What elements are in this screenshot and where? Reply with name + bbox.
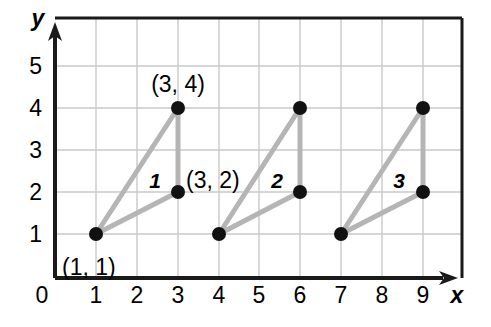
triangle-label-2: 2 [270,169,283,192]
vertex-dot-9-2 [416,185,430,199]
origin-label: 0 [36,282,49,308]
vertex-dot-1-1 [89,227,103,241]
triangle-label-1: 1 [149,169,161,192]
vertex-dot-9-4 [416,101,430,115]
x-tick-label-7: 7 [335,282,348,308]
x-tick-label-1: 1 [90,282,103,308]
x-tick-label-6: 6 [294,282,307,308]
vertex-dot-4-1 [212,227,226,241]
x-tick-label-3: 3 [172,282,185,308]
vertex-dot-7-1 [334,227,348,241]
y-tick-label-5: 5 [29,53,42,79]
y-tick-label-4: 4 [29,95,42,121]
vertex-dot-3-4 [171,101,185,115]
x-tick-label-9: 9 [417,282,430,308]
point-label-3-2: (3, 2) [186,167,240,193]
triangle-label-3: 3 [393,169,405,192]
coordinate-plane-figure: (1, 1) (3, 4) (3, 2) 1 2 3 1 2 3 4 5 0 1… [0,0,491,327]
y-axis-label: y [31,5,46,31]
point-label-1-1: (1, 1) [62,254,116,280]
x-tick-label-5: 5 [253,282,266,308]
vertex-dot-3-2 [171,185,185,199]
triangles-on-grid-chart: (1, 1) (3, 4) (3, 2) 1 2 3 1 2 3 4 5 0 1… [0,0,491,327]
x-axis-label: x [449,282,465,308]
x-tick-label-2: 2 [131,282,144,308]
x-tick-label-4: 4 [213,282,226,308]
x-tick-label-8: 8 [376,282,389,308]
vertex-dot-6-2 [293,185,307,199]
point-label-3-4: (3, 4) [151,71,205,97]
y-tick-label-3: 3 [29,137,42,163]
vertex-dot-6-4 [293,101,307,115]
x-tick-labels: 1 2 3 4 5 6 7 8 9 [90,282,430,308]
y-tick-label-2: 2 [29,179,42,205]
y-tick-label-1: 1 [29,221,42,247]
